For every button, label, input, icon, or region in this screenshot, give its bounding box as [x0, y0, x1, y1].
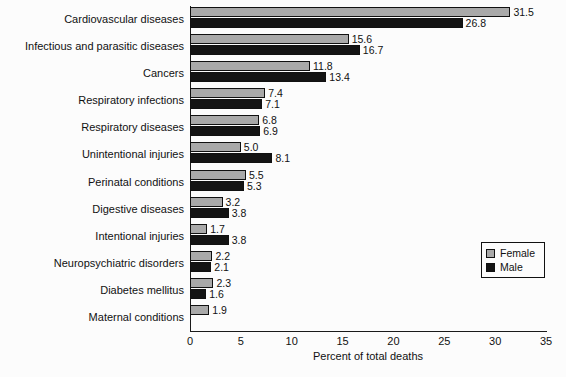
category-label: Infectious and parasitic diseases [0, 40, 184, 52]
category-label: Diabetes mellitus [0, 284, 184, 296]
legend-label-male: Male [500, 262, 523, 273]
bar-group: 2.31.6 [190, 277, 546, 304]
category-label: Intentional injuries [0, 230, 184, 242]
bar-male: 6.9 [190, 126, 278, 136]
bar-male: 7.1 [190, 99, 280, 109]
bar-rect [190, 126, 260, 136]
bar-female: 31.5 [190, 7, 534, 17]
legend-item-male: Male [486, 260, 540, 274]
x-tick-label: 30 [489, 335, 501, 347]
bar-rect [190, 115, 259, 125]
bar-male: 8.1 [190, 153, 290, 163]
bar-value-label: 2.2 [215, 251, 230, 261]
bar-value-label: 1.9 [212, 305, 227, 315]
category-label: Cancers [0, 67, 184, 79]
bar-value-label: 3.8 [232, 235, 247, 245]
bar-female: 7.4 [190, 88, 283, 98]
x-tick-label: 15 [336, 335, 348, 347]
category-label: Unintentional injuries [0, 148, 184, 160]
bar-value-label: 7.4 [268, 88, 283, 98]
bar-value-label: 8.1 [275, 153, 290, 163]
bar-value-label: 26.8 [466, 18, 486, 28]
bar-rect [190, 235, 229, 245]
bar-male: 3.8 [190, 208, 246, 218]
category-label: Maternal conditions [0, 311, 184, 323]
chart-legend: Female Male [481, 242, 545, 278]
legend-label-female: Female [500, 248, 535, 259]
bar-female: 15.6 [190, 34, 372, 44]
bar-value-label: 5.0 [244, 142, 259, 152]
bar-rect [190, 251, 212, 261]
bar-male: 16.7 [190, 45, 383, 55]
x-axis-tick-labels: 05101520253035 [190, 332, 546, 350]
bar-male: 26.8 [190, 18, 486, 28]
bars-container: 31.526.815.616.711.813.47.47.16.86.95.08… [190, 6, 546, 331]
bar-group: 11.813.4 [190, 60, 546, 87]
bar-rect [190, 262, 211, 272]
category-label: Digestive diseases [0, 203, 184, 215]
bar-value-label: 13.4 [329, 72, 349, 82]
category-label: Respiratory infections [0, 94, 184, 106]
bar-male: 13.4 [190, 72, 350, 82]
bar-male: 2.1 [190, 262, 229, 272]
bar-value-label: 31.5 [513, 7, 533, 17]
legend-swatch-male-icon [486, 263, 495, 272]
bar-female: 2.3 [190, 278, 231, 288]
x-tick-label: 35 [540, 335, 552, 347]
bar-value-label: 7.1 [265, 99, 280, 109]
bar-value-label: 6.8 [262, 115, 277, 125]
bar-value-label: 15.6 [352, 34, 372, 44]
bar-rect [190, 99, 262, 109]
bar-value-label: 16.7 [363, 45, 383, 55]
bar-rect [190, 18, 463, 28]
bar-female: 1.7 [190, 224, 225, 234]
bar-female: 1.9 [190, 305, 227, 315]
bar-female: 3.2 [190, 197, 240, 207]
bar-rect [190, 45, 360, 55]
bar-value-label: 1.6 [209, 289, 224, 299]
bar-group: 15.616.7 [190, 33, 546, 60]
bar-value-label: 1.7 [210, 224, 225, 234]
bar-value-label: 5.5 [249, 170, 264, 180]
bar-rect [190, 7, 510, 17]
bar-group: 5.55.3 [190, 169, 546, 196]
x-tick-label: 20 [387, 335, 399, 347]
x-axis-title: Percent of total deaths [190, 350, 546, 362]
bar-rect [190, 142, 241, 152]
bar-group: 7.47.1 [190, 87, 546, 114]
bar-rect [190, 88, 265, 98]
bar-chart: Cardiovascular diseasesInfectious and pa… [0, 0, 566, 377]
bar-value-label: 2.1 [214, 262, 229, 272]
bar-value-label: 2.3 [216, 278, 231, 288]
bar-group: 6.86.9 [190, 114, 546, 141]
bar-value-label: 3.2 [226, 197, 241, 207]
bar-rect [190, 278, 213, 288]
category-label: Respiratory diseases [0, 121, 184, 133]
bar-group: 3.23.8 [190, 196, 546, 223]
bar-rect [190, 72, 326, 82]
bar-female: 2.2 [190, 251, 230, 261]
bar-female: 5.5 [190, 170, 264, 180]
bar-male: 5.3 [190, 181, 262, 191]
category-label: Neuropsychiatric disorders [0, 257, 184, 269]
legend-item-female: Female [486, 246, 540, 260]
x-tick-label: 5 [238, 335, 244, 347]
bar-group: 1.9 [190, 304, 546, 331]
bar-female: 11.8 [190, 61, 333, 71]
legend-swatch-female-icon [486, 249, 495, 258]
bar-group: 5.08.1 [190, 141, 546, 168]
bar-female: 5.0 [190, 142, 258, 152]
category-label: Perinatal conditions [0, 176, 184, 188]
bar-rect [190, 208, 229, 218]
bar-rect [190, 61, 310, 71]
bar-value-label: 3.8 [232, 208, 247, 218]
bar-rect [190, 289, 206, 299]
category-label: Cardiovascular diseases [0, 13, 184, 25]
x-tick-label: 10 [286, 335, 298, 347]
bar-value-label: 5.3 [247, 181, 262, 191]
category-axis-labels: Cardiovascular diseasesInfectious and pa… [0, 6, 184, 331]
x-tick-label: 25 [438, 335, 450, 347]
x-tick-label: 0 [187, 335, 193, 347]
bar-rect [190, 181, 244, 191]
bar-rect [190, 224, 207, 234]
